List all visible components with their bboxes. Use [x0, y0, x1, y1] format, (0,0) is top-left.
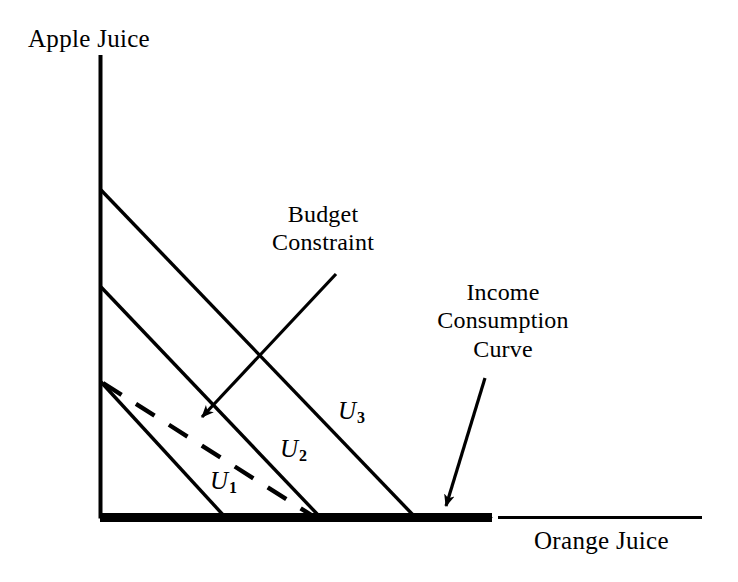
- curve-label-u2-base: U: [280, 435, 298, 462]
- curve-label-u1-base: U: [210, 467, 228, 494]
- diagram-canvas: [0, 0, 738, 582]
- income-consumption-curve-label: Income Consumption Curve: [423, 278, 583, 363]
- budget-constraint-label: Budget Constraint: [258, 200, 388, 257]
- x-axis-title: Orange Juice: [534, 528, 669, 553]
- curve-label-u1-subscript: 1: [228, 479, 237, 496]
- budget-constraint-arrow: [202, 274, 336, 417]
- income-consumption-curve-arrow: [446, 378, 485, 506]
- curve-label-u3: U3: [338, 398, 365, 426]
- economics-diagram: Apple Juice Orange Juice Budget Constrai…: [0, 0, 738, 582]
- curve-label-u2: U2: [280, 436, 307, 464]
- curve-label-u2-subscript: 2: [298, 447, 307, 464]
- y-axis-title: Apple Juice: [28, 26, 150, 51]
- curve-label-u3-subscript: 3: [356, 409, 365, 426]
- curve-label-u3-base: U: [338, 397, 356, 424]
- curve-label-u1: U1: [210, 468, 237, 496]
